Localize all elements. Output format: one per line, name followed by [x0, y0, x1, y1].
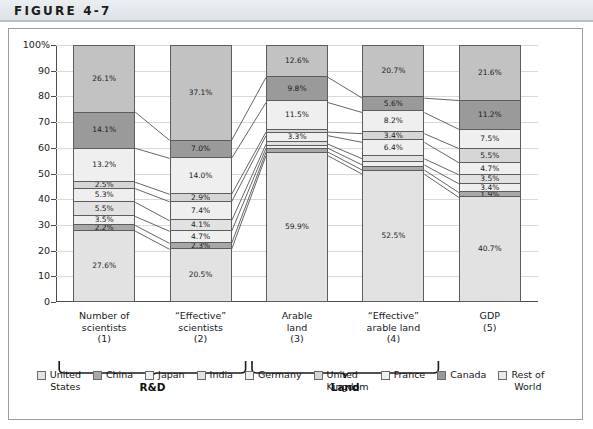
y-axis-label: 80 — [38, 90, 50, 101]
category-label: Number ofscientists(1) — [52, 310, 156, 345]
bar-segment-label: 26.1% — [92, 75, 116, 83]
bar-segment-label: 2.9% — [191, 194, 210, 201]
bar-segment[interactable]: 11.2% — [460, 101, 520, 130]
category-label-line: (1) — [52, 333, 156, 345]
bar-segment[interactable]: 5.5% — [460, 149, 520, 163]
legend-swatch — [197, 371, 206, 380]
y-axis-tick — [51, 199, 56, 200]
y-axis-tick — [51, 122, 56, 123]
y-axis-label: 0 — [44, 296, 50, 307]
bar-segment[interactable]: 4.7% — [460, 163, 520, 175]
bar-segment[interactable]: 13.2% — [74, 149, 134, 183]
category-label-line: Arable — [245, 310, 349, 322]
bar-segment[interactable]: 7.0% — [171, 141, 231, 159]
legend-label: Germany — [258, 369, 302, 381]
stacked-bar[interactable]: 20.7%5.6%8.2%3.4%6.4%52.5% — [362, 45, 424, 302]
legend-item[interactable]: India — [197, 369, 233, 381]
legend-item[interactable]: UnitedKingdom — [314, 369, 369, 392]
legend-item[interactable]: Germany — [245, 369, 302, 381]
category-label: “Effective”arable land(4) — [341, 310, 445, 345]
bar-segment[interactable]: 26.1% — [74, 46, 134, 113]
bar-segment-label: 14.0% — [189, 172, 213, 180]
bar-segment[interactable]: 2.9% — [171, 194, 231, 201]
legend-item[interactable]: Rest ofWorld — [498, 369, 544, 392]
legend-swatch — [437, 371, 446, 380]
bar-segment-label: 52.5% — [381, 232, 405, 240]
bar-segment[interactable]: 5.3% — [74, 189, 134, 203]
figure-container: FIGURE 4-7 0102030405060708090100% 26.1%… — [0, 0, 593, 429]
bar-segment[interactable]: 12.6% — [267, 46, 327, 77]
bar-segment[interactable]: 59.9% — [267, 153, 327, 301]
legend-label: India — [210, 369, 233, 381]
bar-segment[interactable]: 3.4% — [363, 132, 423, 140]
legend-label: Rest ofWorld — [511, 369, 544, 392]
bar-segment-label: 21.6% — [478, 69, 502, 77]
legend-swatch — [145, 371, 154, 380]
bar-segment-label: 11.2% — [478, 111, 502, 119]
bar-segment[interactable]: 3.5% — [74, 216, 134, 225]
bar-segment-label: 5.6% — [384, 100, 403, 108]
category-label-line: arable land — [341, 322, 445, 334]
legend-label: France — [394, 369, 426, 381]
y-axis-label: 70 — [38, 116, 50, 127]
bar-segment[interactable]: 5.5% — [74, 202, 134, 216]
legend-item[interactable]: China — [93, 369, 133, 381]
bar-segment[interactable]: 52.5% — [363, 171, 423, 301]
bar-segment[interactable]: 14.1% — [74, 113, 134, 149]
figure-card: 0102030405060708090100% 26.1%14.1%13.2%2… — [8, 28, 583, 420]
y-axis-tick — [51, 302, 56, 303]
bar-segment[interactable]: 7.4% — [171, 202, 231, 221]
bar-segment[interactable]: 5.6% — [363, 97, 423, 111]
category-label-line: (2) — [149, 333, 253, 345]
category-label: “Effective”scientists(2) — [149, 310, 253, 345]
y-axis-label: 90 — [38, 65, 50, 76]
bar-segment[interactable]: 40.7% — [460, 197, 520, 301]
bar-segment-label: 5.5% — [480, 152, 499, 160]
stacked-bar[interactable]: 21.6%11.2%7.5%5.5%4.7%3.5%3.4%1.9%40.7% — [459, 45, 521, 302]
bar-segment[interactable]: 21.6% — [460, 46, 520, 101]
legend-label-line: India — [210, 369, 233, 381]
stacked-bar[interactable]: 12.6%9.8%11.5%3.3%59.9% — [266, 45, 328, 302]
category-label: Arableland(3) — [245, 310, 349, 345]
bar-segment-label: 4.1% — [191, 221, 210, 229]
bar-segment[interactable]: 3.3% — [267, 133, 327, 141]
bar-segment[interactable]: 4.7% — [171, 231, 231, 243]
bar-segment-label: 20.7% — [381, 67, 405, 75]
bar-segment-label: 11.5% — [285, 111, 309, 119]
category-label-line: (3) — [245, 333, 349, 345]
y-axis-tick — [51, 45, 56, 46]
y-axis-tick — [51, 96, 56, 97]
legend-swatch — [314, 371, 323, 380]
figure-header-band: FIGURE 4-7 — [0, 0, 593, 22]
bar-segment[interactable]: 6.4% — [363, 140, 423, 156]
bar-segment[interactable]: 3.4% — [460, 184, 520, 193]
bar-segment-label: 4.7% — [191, 233, 210, 241]
bar-segment[interactable]: 9.8% — [267, 77, 327, 101]
legend-item[interactable]: Canada — [437, 369, 486, 381]
legend-label-line: China — [106, 369, 133, 381]
legend-item[interactable]: France — [381, 369, 426, 381]
bar-segment[interactable]: 4.1% — [171, 220, 231, 230]
plot-area: 26.1%14.1%13.2%2.5%5.3%5.5%3.5%2.2%27.6%… — [56, 45, 538, 302]
bar-segment-label: 7.4% — [191, 207, 210, 215]
bar-segment[interactable]: 37.1% — [171, 46, 231, 141]
bar-segment-label: 3.5% — [95, 216, 114, 224]
bar-segment[interactable]: 8.2% — [363, 111, 423, 131]
bar-segment[interactable]: 20.7% — [363, 46, 423, 97]
bar-segment[interactable]: 20.5% — [171, 249, 231, 301]
stacked-bar[interactable]: 26.1%14.1%13.2%2.5%5.3%5.5%3.5%2.2%27.6% — [73, 45, 135, 302]
bar-segment[interactable]: 7.5% — [460, 130, 520, 149]
bar-segment[interactable]: 27.6% — [74, 231, 134, 301]
bar-segment[interactable]: 3.5% — [460, 175, 520, 184]
stacked-bar[interactable]: 37.1%7.0%14.0%2.9%7.4%4.1%4.7%2.3%20.5% — [170, 45, 232, 302]
bar-segment-label: 3.5% — [480, 175, 499, 183]
bar-segment[interactable]: 11.5% — [267, 101, 327, 129]
bar-segment[interactable]: 14.0% — [171, 158, 231, 194]
bar-segment-label: 3.4% — [384, 132, 403, 139]
y-axis-tick — [51, 174, 56, 175]
bar-segment-label: 9.8% — [287, 85, 306, 93]
legend-item[interactable]: UnitedStates — [37, 369, 81, 392]
legend-item[interactable]: Japan — [145, 369, 185, 381]
legend-label-line: Germany — [258, 369, 302, 381]
legend-label-line: Kingdom — [327, 381, 369, 393]
